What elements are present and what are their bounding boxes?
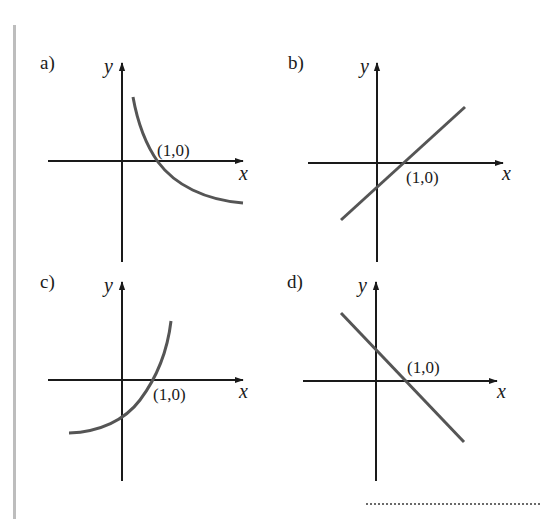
panel-b-y-label: y bbox=[360, 56, 369, 76]
panel-b-point-label: (1,0) bbox=[406, 169, 439, 186]
panel-d-x-label: x bbox=[497, 381, 506, 401]
panel-a-label: a) bbox=[40, 53, 55, 72]
panel-d-point-label: (1,0) bbox=[407, 359, 440, 376]
panel-c-label: c) bbox=[40, 272, 55, 291]
panel-c-graph bbox=[48, 282, 243, 481]
panel-b-label: b) bbox=[288, 53, 304, 72]
panel-b-graph bbox=[308, 63, 503, 262]
panel-d-y-label: y bbox=[358, 275, 367, 295]
panel-c-y-label: y bbox=[104, 275, 113, 295]
panel-d-graph bbox=[303, 282, 497, 481]
panel-c-point-label: (1,0) bbox=[153, 386, 186, 403]
panel-c-x-label: x bbox=[239, 381, 248, 401]
panel-a-graph bbox=[48, 63, 243, 262]
panel-a-point-label: (1,0) bbox=[157, 142, 190, 159]
panel-d-line bbox=[341, 313, 464, 442]
figure: a) y x (1,0) b) y x (1,0) c) y x (1,0) d… bbox=[0, 0, 540, 519]
panel-d-label: d) bbox=[287, 272, 303, 291]
answer-dotted-line bbox=[366, 503, 540, 505]
panel-c-curve bbox=[69, 321, 171, 433]
graphs-canvas bbox=[0, 0, 540, 519]
panel-b-x-label: x bbox=[502, 163, 511, 183]
panel-a-y-label: y bbox=[104, 56, 113, 76]
panel-a-x-label: x bbox=[239, 163, 248, 183]
